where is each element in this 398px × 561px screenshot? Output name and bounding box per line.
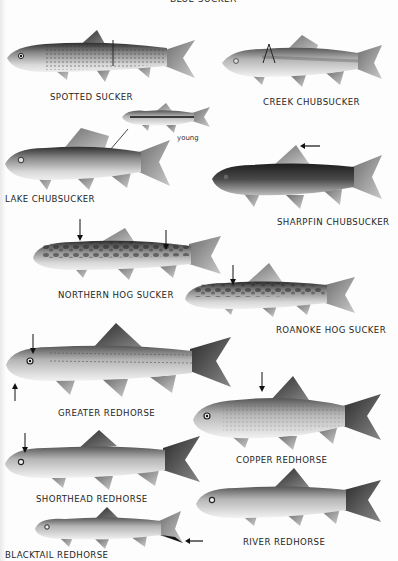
marker-arrow-left: [185, 537, 203, 545]
label-lake-chubsucker: LAKE CHUBSUCKER: [5, 194, 95, 204]
label-river-redhorse: RIVER REDHORSE: [243, 537, 325, 547]
copper-redhorse-illustration: [193, 376, 381, 451]
marker-arrow-down-2: [163, 230, 169, 250]
spotted-sucker-illustration: [5, 28, 195, 88]
marker-arrow-left: [300, 142, 320, 150]
label-blacktail-redhorse: BLACKTAIL REDHORSE: [5, 550, 108, 560]
label-young: young: [177, 134, 199, 142]
label-greater-redhorse: GREATER REDHORSE: [58, 408, 155, 418]
label-sharpfin-chubsucker: SHARPFIN CHUBSUCKER: [277, 217, 389, 227]
label-shorthead-redhorse: SHORTHEAD REDHORSE: [36, 494, 148, 504]
creek-chubsucker-illustration: [222, 33, 382, 93]
marker-chevron: [262, 43, 276, 65]
label-northern-hog-sucker: NORTHERN HOG SUCKER: [58, 290, 174, 300]
roanoke-hog-sucker-illustration: [185, 263, 355, 323]
label-creek-chubsucker: CREEK CHUBSUCKER: [263, 97, 360, 107]
marker-arrow-down: [22, 433, 28, 453]
sharpfin-chubsucker-illustration: [212, 145, 382, 215]
marker-arrow-down: [30, 334, 36, 354]
marker-arrow-down: [230, 265, 236, 285]
blacktail-redhorse-illustration: [35, 507, 185, 552]
marker-arrow-down: [259, 372, 265, 392]
marker-arrow-down-1: [77, 219, 83, 241]
label-roanoke-hog-sucker: ROANOKE HOG SUCKER: [276, 325, 386, 335]
river-redhorse-illustration: [196, 468, 381, 533]
top-caption: BLUE SUCKER: [170, 0, 237, 4]
label-spotted-sucker: SPOTTED SUCKER: [50, 92, 133, 102]
field-guide-plate: BLUE SUCKER SPOTTED SUCKER CREEK CHUBSUC…: [0, 0, 398, 561]
lake-chubsucker-illustration: [5, 126, 170, 198]
marker-arrow-up: [12, 383, 18, 401]
label-copper-redhorse: COPPER REDHORSE: [236, 455, 327, 465]
marker-line: [112, 40, 116, 66]
shorthead-redhorse-illustration: [5, 430, 200, 498]
